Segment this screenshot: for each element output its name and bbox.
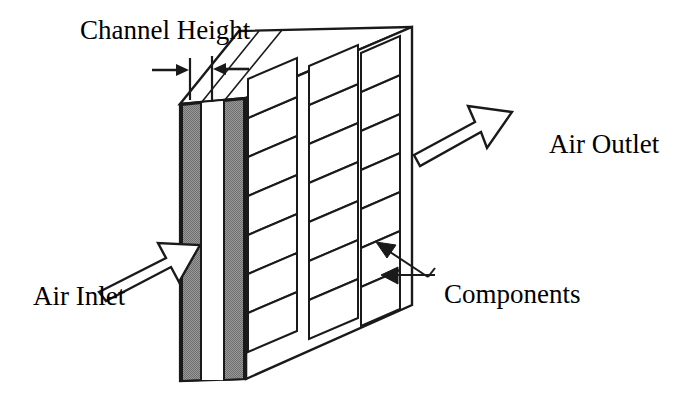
figure-canvas: Channel Height Air Outlet Air Inlet Comp… [0,0,684,410]
components-label: Components [444,281,581,308]
schematic-drawing [0,0,684,410]
air-outlet-arrow-icon [414,106,512,166]
channel-gap [201,101,224,380]
channel-wall-left [182,103,201,381]
channel-wall-right [224,99,244,380]
component-column-1 [248,58,297,352]
air-outlet-label: Air Outlet [549,131,659,158]
component-column-2 [309,45,358,339]
channel-height-label: Channel Height [80,17,250,44]
air-inlet-label: Air Inlet [33,283,125,310]
component-grid [248,36,400,352]
